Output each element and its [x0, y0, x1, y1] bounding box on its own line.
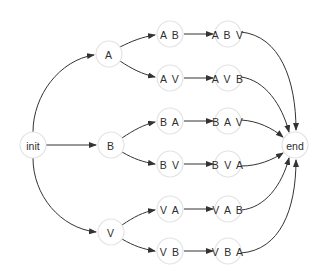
node-init: init [20, 132, 46, 158]
node-label: A B [160, 29, 180, 41]
edge-v-to-va [122, 210, 155, 225]
edge-init-to-v [33, 158, 96, 232]
node-vb: V B [157, 238, 183, 264]
node-label: B [107, 140, 115, 152]
edge-bav-to-end [241, 120, 283, 137]
node-label: A V B [212, 73, 244, 85]
node-ab: A B [157, 21, 183, 47]
node-av: A V [157, 65, 183, 91]
node-bav: B A V [212, 108, 244, 134]
edge-init-to-a [33, 55, 94, 132]
node-va: V A [157, 196, 183, 222]
node-label: B A V [212, 116, 244, 128]
node-label: A [105, 49, 113, 61]
node-label: A B V [212, 29, 244, 41]
node-v: V [98, 219, 124, 245]
edge-b-to-bv [122, 152, 155, 164]
node-label: V A [160, 204, 180, 216]
node-label: V A B [212, 204, 244, 216]
edge-a-to-av [120, 61, 155, 77]
edge-b-to-ba [122, 122, 155, 138]
node-label: V B [160, 246, 181, 258]
node-label: B A [160, 116, 180, 128]
node-vba: V B A [212, 238, 244, 264]
node-label: V [107, 227, 115, 239]
node-abv: A B V [212, 21, 244, 47]
state-diagram: initABVA BA VB AB VV AV BA B VA V BB A V… [0, 0, 327, 279]
edge-a-to-ab [120, 35, 155, 47]
node-ba: B A [157, 108, 183, 134]
edge-v-to-vb [122, 239, 155, 251]
edge-avb-to-end [241, 77, 289, 132]
node-end: end [282, 132, 308, 158]
nodes: initABVA BA VB AB VV AV BA B VA V BB A V… [20, 21, 308, 264]
node-b: B [98, 132, 124, 158]
node-label: end [286, 140, 304, 152]
node-bva: B V A [212, 151, 244, 177]
node-label: B V A [212, 159, 244, 171]
node-label: V B A [212, 246, 244, 258]
node-avb: A V B [212, 65, 244, 91]
node-label: A V [160, 73, 180, 85]
edge-vba-to-end [241, 160, 296, 253]
edge-abv-to-end [241, 32, 296, 130]
node-label: B V [160, 159, 181, 171]
node-bv: B V [157, 151, 183, 177]
node-vab: V A B [212, 196, 244, 222]
edge-bva-to-end [241, 153, 283, 166]
node-a: A [96, 41, 122, 67]
node-label: init [26, 140, 40, 152]
